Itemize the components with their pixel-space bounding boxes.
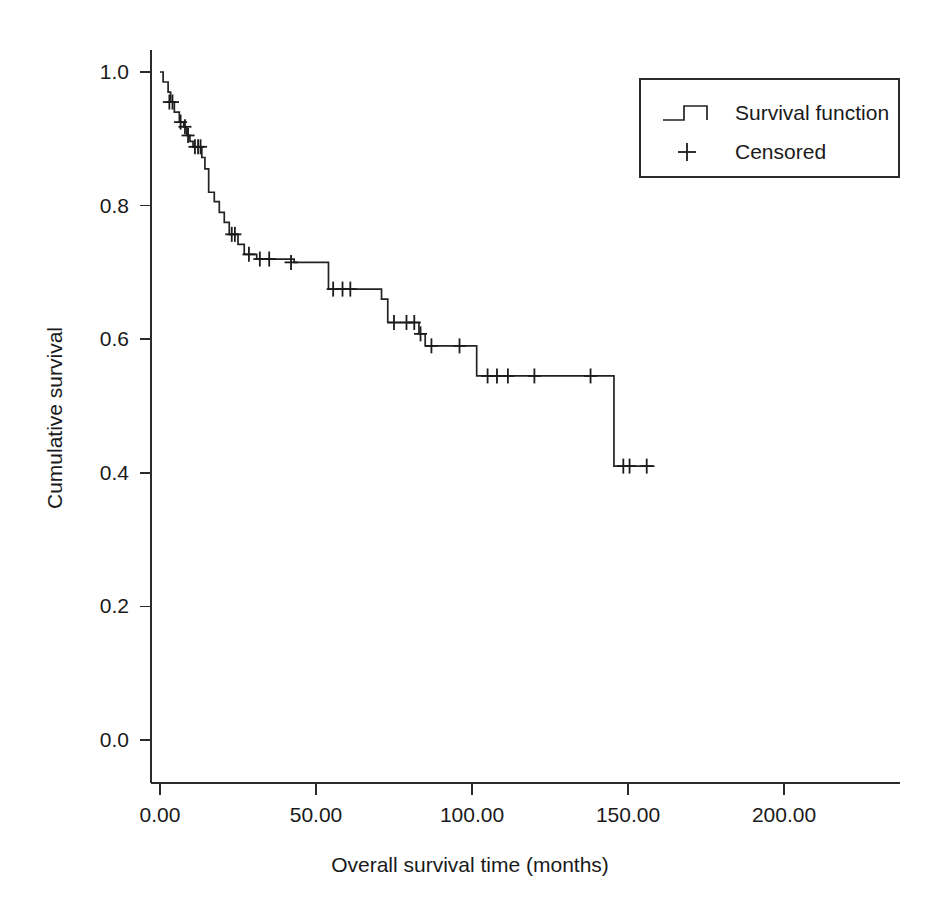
- y-tick-label: 0.8: [100, 194, 129, 217]
- x-tick-label: 150.00: [596, 803, 660, 826]
- y-tick-label: 0.4: [100, 461, 130, 484]
- censored-mark: [501, 368, 514, 383]
- x-axis-title: Overall survival time (months): [331, 853, 609, 876]
- censored-mark: [584, 368, 597, 383]
- y-axis-title: Cumulative survival: [43, 327, 66, 509]
- x-tick-label: 100.00: [440, 803, 504, 826]
- censored-mark: [425, 338, 438, 353]
- y-tick-label: 1.0: [100, 60, 129, 83]
- x-tick-label: 50.00: [290, 803, 343, 826]
- y-axis-group: 0.00.20.40.60.81.0: [100, 50, 151, 783]
- survival-chart: 0.00.20.40.60.81.0 0.0050.00100.00150.00…: [0, 0, 927, 899]
- censored-mark: [194, 139, 207, 154]
- y-tick-label: 0.6: [100, 327, 129, 350]
- censored-mark: [640, 459, 653, 474]
- y-tick-label: 0.2: [100, 594, 129, 617]
- x-axis-ticks: 0.0050.00100.00150.00200.00: [140, 783, 817, 826]
- censored-mark: [344, 282, 357, 297]
- censored-mark: [388, 315, 401, 330]
- x-axis-group: 0.0050.00100.00150.00200.00: [140, 783, 900, 826]
- legend: Survival function Censored: [640, 79, 899, 177]
- survival-step-curve: [160, 72, 655, 466]
- censored-mark: [228, 227, 241, 242]
- censored-marks-group: [163, 95, 653, 474]
- km-plot-svg: 0.00.20.40.60.81.0 0.0050.00100.00150.00…: [0, 0, 927, 899]
- legend-label-survival: Survival function: [735, 101, 889, 124]
- censored-mark: [285, 255, 298, 270]
- censored-mark: [263, 252, 276, 267]
- censored-mark: [528, 368, 541, 383]
- y-tick-label: 0.0: [100, 728, 129, 751]
- x-tick-label: 0.00: [140, 803, 181, 826]
- censored-mark: [453, 338, 466, 353]
- censored-mark: [166, 95, 179, 110]
- legend-label-censored: Censored: [735, 140, 826, 163]
- plot-area: [160, 72, 655, 474]
- censored-mark: [623, 459, 636, 474]
- x-tick-label: 200.00: [752, 803, 816, 826]
- y-axis-ticks: 0.00.20.40.60.81.0: [100, 60, 151, 751]
